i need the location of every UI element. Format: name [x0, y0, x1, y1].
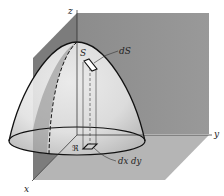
dxdy-label: dx dy	[118, 156, 141, 166]
region-label: ℜ	[72, 144, 79, 153]
surface-integral-diagram: z y x S dS ℜ dx dy	[0, 0, 224, 196]
z-axis-label: z	[67, 6, 73, 16]
surface-label: S	[80, 48, 86, 58]
y-axis-label: y	[213, 129, 220, 139]
x-axis-label: x	[24, 184, 29, 194]
ds-label: dS	[119, 46, 131, 56]
